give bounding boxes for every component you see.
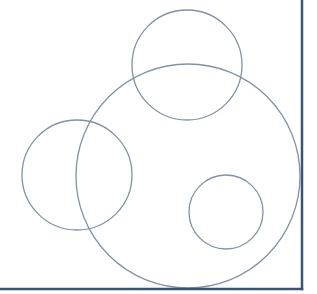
diagram-canvas [0, 0, 317, 294]
top-circle [132, 10, 242, 120]
circles-group [22, 10, 300, 288]
left-circle [22, 120, 132, 230]
large-circle [76, 64, 300, 288]
small-circle [189, 175, 263, 249]
